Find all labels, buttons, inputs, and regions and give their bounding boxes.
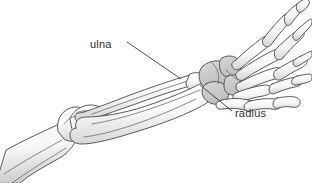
forearm-skeleton-figure: ulna radius: [0, 0, 312, 183]
label-ulna: ulna: [90, 38, 112, 50]
label-radius: radius: [235, 107, 266, 119]
skeleton-illustration: ulna radius: [0, 0, 312, 183]
ulna-leader-line: [127, 42, 181, 79]
